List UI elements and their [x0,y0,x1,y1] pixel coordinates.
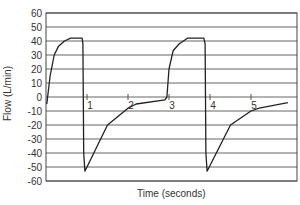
flow-time-chart: 6050403020100-10-20-30-40-50-60 12345 [0,0,300,205]
y-tick-label: -40 [28,148,43,159]
y-tick-label: -20 [28,120,43,131]
y-tick-label: 20 [31,64,43,75]
y-tick-label: -10 [28,106,43,117]
y-tick-label: 50 [31,22,43,33]
x-tick-label: 1 [87,100,93,111]
y-tick-label: -60 [28,176,43,187]
x-tick-label: 3 [169,100,175,111]
y-tick-label: 60 [31,8,43,19]
y-tick-label: -50 [28,162,43,173]
y-tick-label: -30 [28,134,43,145]
y-tick-label: 10 [31,78,43,89]
y-axis-label: Flow (L/min) [2,59,13,129]
y-tick-label: 30 [31,50,43,61]
y-axis-ticks: 6050403020100-10-20-30-40-50-60 [28,8,43,187]
x-tick-label: 4 [210,100,216,111]
x-axis-label: Time (seconds) [137,188,206,199]
y-tick-label: 0 [36,92,42,103]
y-tick-label: 40 [31,36,43,47]
